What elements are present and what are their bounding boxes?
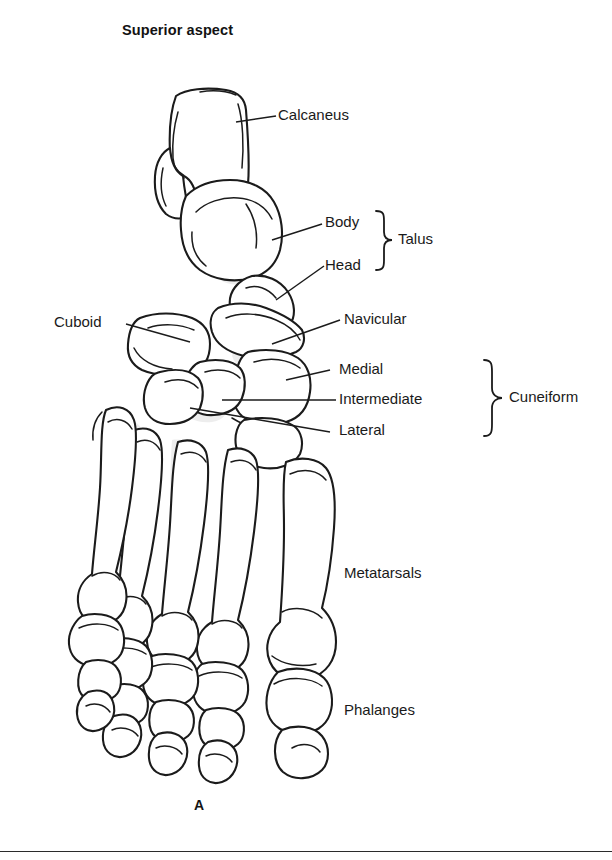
brace-cuneiform [484, 360, 502, 436]
label-cuboid: Cuboid [54, 313, 102, 330]
label-cuneiform-lateral: Lateral [339, 421, 385, 438]
leader-talus-head [276, 266, 324, 300]
figure-page: Superior aspect [0, 0, 612, 860]
label-talus-head: Head [325, 256, 361, 273]
label-talus-body: Body [325, 213, 359, 230]
label-talus-group: Talus [398, 230, 433, 247]
label-phalanges: Phalanges [344, 701, 415, 718]
footer-divider [0, 851, 612, 852]
label-navicular: Navicular [344, 310, 407, 327]
label-cuneiform-group: Cuneiform [509, 388, 578, 405]
figure-panel-label: A [194, 797, 204, 813]
brace-talus [376, 211, 392, 270]
label-metatarsals: Metatarsals [344, 564, 422, 581]
label-cuneiform-medial: Medial [339, 360, 383, 377]
label-calcaneus: Calcaneus [278, 106, 349, 123]
label-cuneiform-intermediate: Intermediate [339, 390, 422, 407]
foot-skeleton-illustration [0, 0, 612, 860]
